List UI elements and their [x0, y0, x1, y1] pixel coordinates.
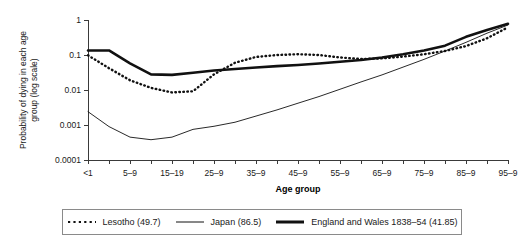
- chart-render-group: 10.10.010.0010.0001<15–915–1925–935–945–…: [18, 15, 518, 194]
- x-tick-label: 75–9: [415, 168, 434, 178]
- y-tick-label: 0.0001: [55, 155, 81, 165]
- x-tick-label: 45–9: [289, 168, 308, 178]
- legend-item-england-and-wales: England and Wales 1838–54 (41.85): [275, 217, 457, 227]
- x-tick-label: 5–9: [123, 168, 137, 178]
- legend-swatch-thin-line-icon: [175, 217, 205, 227]
- y-tick-label: 1: [76, 15, 81, 25]
- chart-figure: 10.10.010.0010.0001<15–915–1925–935–945–…: [0, 0, 523, 243]
- x-axis-title: Age group: [276, 184, 321, 194]
- x-tick-label: <1: [83, 168, 93, 178]
- x-tick-label: 65–9: [373, 168, 392, 178]
- legend-swatch-thick-line-icon: [275, 217, 305, 227]
- series-line-england: [88, 24, 508, 75]
- series-line-japan: [88, 25, 508, 140]
- legend-label-japan: Japan (86.5): [211, 217, 262, 227]
- legend-item-lesotho: Lesotho (49.7): [67, 217, 161, 227]
- y-tick-label: 0.001: [60, 120, 82, 130]
- x-tick-label: 95–9: [499, 168, 518, 178]
- y-axis-title-line-2: group (log scale): [29, 58, 39, 121]
- x-tick-label: 35–9: [247, 168, 266, 178]
- x-tick-label: 55–9: [331, 168, 350, 178]
- plot-area: 10.10.010.0010.0001<15–915–1925–935–945–…: [0, 0, 523, 200]
- y-axis-title-line-1: Probability of dying in each age: [18, 31, 28, 149]
- chart-legend: Lesotho (49.7) Japan (86.5) England and …: [62, 209, 462, 235]
- y-tick-label: 0.1: [69, 50, 81, 60]
- legend-item-japan: Japan (86.5): [175, 217, 262, 227]
- x-tick-label: 85–9: [457, 168, 476, 178]
- legend-label-england-and-wales: England and Wales 1838–54 (41.85): [311, 217, 457, 227]
- legend-swatch-dotted-icon: [67, 217, 97, 227]
- y-tick-label: 0.01: [64, 85, 81, 95]
- x-tick-label: 15–19: [160, 168, 184, 178]
- series-line-lesotho: [88, 27, 508, 92]
- x-tick-label: 25–9: [205, 168, 224, 178]
- line-chart-svg: 10.10.010.0010.0001<15–915–1925–935–945–…: [0, 0, 523, 200]
- legend-label-lesotho: Lesotho (49.7): [103, 217, 161, 227]
